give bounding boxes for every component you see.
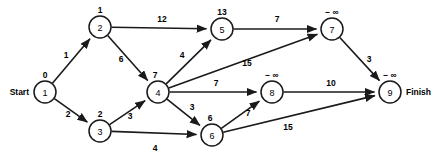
edge-3-to-6 <box>111 131 196 134</box>
node-3[interactable]: 3 <box>89 120 111 142</box>
node-6[interactable]: 6 <box>201 124 223 146</box>
edge-weight-4-6: 3 <box>190 102 195 112</box>
graph-canvas: 123456789 12126344157377153100Start12713… <box>0 0 433 158</box>
edge-weight-1-2: 1 <box>64 50 69 60</box>
node-2[interactable]: 2 <box>89 16 111 38</box>
edge-1-to-2 <box>52 39 90 83</box>
edge-weight-2-5: 12 <box>157 14 167 24</box>
node-id-label-2: 2 <box>97 23 102 33</box>
node-9[interactable]: 9 <box>379 81 401 103</box>
node-8[interactable]: 8 <box>261 81 283 103</box>
node-5[interactable]: 5 <box>211 18 233 40</box>
start-label: Start <box>10 87 30 97</box>
edge-weight-6-8: 7 <box>246 108 251 118</box>
node-value-8: − ∞ <box>265 70 278 80</box>
edge-weight-4-5: 4 <box>180 50 185 60</box>
node-value-7: − ∞ <box>325 7 338 17</box>
node-value-3: 2 <box>98 109 103 119</box>
finish-label: Finish <box>406 87 431 97</box>
edge-weight-2-4: 6 <box>119 54 124 64</box>
node-1[interactable]: 1 <box>34 81 56 103</box>
edge-weight-3-6: 4 <box>153 143 158 153</box>
edge-2-to-4 <box>108 36 148 81</box>
node-id-label-5: 5 <box>219 25 224 35</box>
edge-weight-5-7: 7 <box>275 14 280 24</box>
node-value-5: 13 <box>217 7 227 17</box>
node-id-label-6: 6 <box>209 131 214 141</box>
node-value-4: 7 <box>153 70 158 80</box>
edge-weight-7-9: 3 <box>367 54 372 64</box>
edge-4-to-5 <box>166 40 211 84</box>
node-id-label-4: 4 <box>155 88 160 98</box>
edge-7-to-9 <box>340 37 380 80</box>
node-value-6: 6 <box>208 113 213 123</box>
node-value-1: 0 <box>43 70 48 80</box>
node-7[interactable]: 7 <box>321 18 343 40</box>
edge-2-to-5 <box>111 27 206 29</box>
edge-4-to-6 <box>167 99 200 125</box>
edge-weight-4-8: 7 <box>214 78 219 88</box>
node-id-label-1: 1 <box>42 88 47 98</box>
edge-weight-8-9: 10 <box>326 78 336 88</box>
node-id-label-9: 9 <box>387 88 392 98</box>
node-id-label-3: 3 <box>97 127 102 137</box>
node-id-label-8: 8 <box>269 88 274 98</box>
edge-weight-1-3: 2 <box>66 109 71 119</box>
edge-weight-4-7: 15 <box>242 58 252 68</box>
network-diagram: 123456789 12126344157377153100Start12713… <box>0 0 433 158</box>
node-4[interactable]: 4 <box>147 81 169 103</box>
node-value-2: 1 <box>98 5 103 15</box>
node-value-9: − ∞ <box>383 70 396 80</box>
edge-weight-6-9: 15 <box>283 122 293 132</box>
edge-1-to-3 <box>54 99 87 122</box>
edge-weight-3-4: 3 <box>128 111 133 121</box>
node-id-label-7: 7 <box>329 25 334 35</box>
